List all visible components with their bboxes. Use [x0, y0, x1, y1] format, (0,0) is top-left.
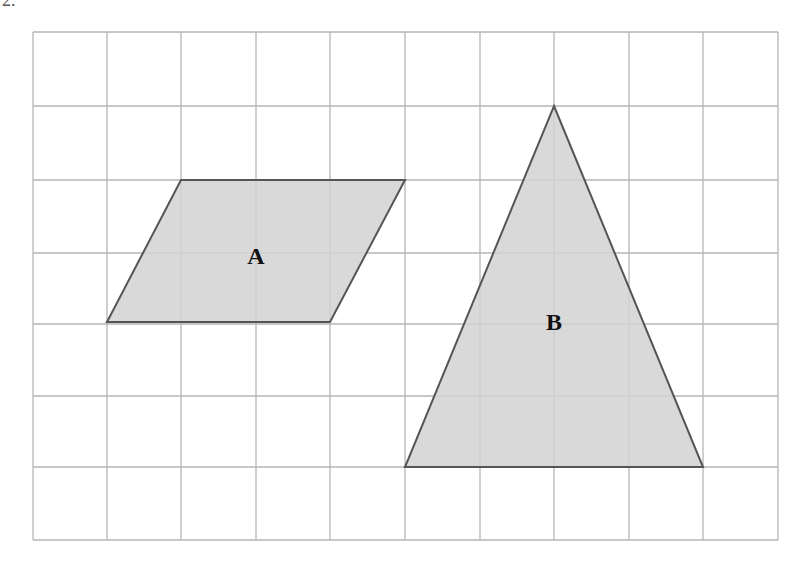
shape-triangle	[405, 106, 703, 467]
shape-label-b: B	[546, 309, 562, 335]
shape-label-a: A	[247, 243, 265, 269]
grid-figure: AB	[0, 0, 809, 572]
